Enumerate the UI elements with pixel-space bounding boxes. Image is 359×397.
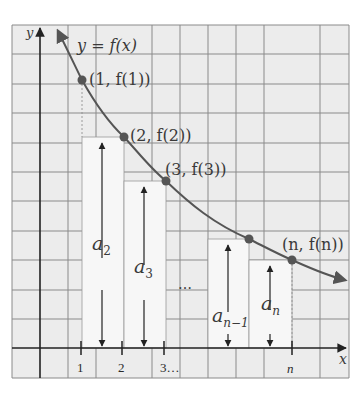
point-label-2: (2, f(2)) xyxy=(130,126,191,145)
point-label-n: (n, f(n)) xyxy=(282,235,344,254)
point-2 xyxy=(120,133,129,142)
x-tick-3: 3… xyxy=(160,360,180,375)
curve-label: y = f(x) xyxy=(76,36,137,55)
y-axis-label: y xyxy=(25,25,34,40)
point-n xyxy=(288,256,297,265)
ellipsis: … xyxy=(178,276,192,292)
x-tick-1: 1 xyxy=(77,360,84,375)
point-label-1: (1, f(1)) xyxy=(89,70,150,89)
x-tick-n: n xyxy=(287,361,294,376)
point-label-3: (3, f(3)) xyxy=(165,160,226,179)
integral-test-diagram: 1 2 3… n x y a2 a3 an−1 an … y = f(x) (1… xyxy=(0,0,359,397)
point-n-1 xyxy=(245,235,254,244)
point-1 xyxy=(78,76,87,85)
x-tick-2: 2 xyxy=(118,360,125,375)
x-axis-label: x xyxy=(339,351,347,367)
